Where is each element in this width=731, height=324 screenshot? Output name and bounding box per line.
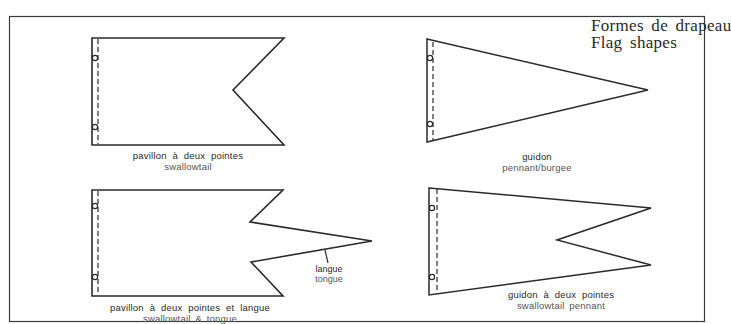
caption-en: swallowtail xyxy=(133,161,243,172)
annotation-en: tongue xyxy=(315,274,343,284)
grommet-icon xyxy=(92,203,97,208)
caption-fr: guidon à deux pointes xyxy=(508,289,614,300)
swallowtail-flag-shape xyxy=(92,38,284,145)
swallowtail-pennant-flag-shape xyxy=(429,188,651,295)
leader-line xyxy=(325,250,328,263)
annotation-fr: langue xyxy=(315,264,343,274)
caption-swallowtail-tongue: pavillon à deux pointes et langue swallo… xyxy=(110,302,270,324)
caption-en: swallowtail & tongue xyxy=(110,313,270,324)
caption-swallowtail: pavillon à deux pointes swallowtail xyxy=(133,150,243,172)
caption-en: pennant/burgee xyxy=(502,162,571,173)
caption-fr: pavillon à deux pointes et langue xyxy=(110,302,270,313)
grommet-icon xyxy=(429,274,434,279)
title-english: Flag shapes xyxy=(591,34,731,51)
pennant-flag-shape xyxy=(427,39,648,142)
caption-fr: pavillon à deux pointes xyxy=(133,150,243,161)
grommet-icon xyxy=(92,274,97,279)
grommet-icon xyxy=(92,55,97,60)
caption-pennant: guidon pennant/burgee xyxy=(502,151,571,173)
grommet-icon xyxy=(427,121,432,126)
grommet-icon xyxy=(427,55,432,60)
grommet-icon xyxy=(429,205,434,210)
grommet-icon xyxy=(92,124,97,129)
caption-fr: guidon xyxy=(502,151,571,162)
outer-frame xyxy=(10,17,705,322)
diagram-title: Formes de drapeau Flag shapes xyxy=(591,17,731,51)
annotation-tongue: langue tongue xyxy=(315,264,343,284)
caption-en: swallowtail pennant xyxy=(508,300,614,311)
caption-swallowtail-pennant: guidon à deux pointes swallowtail pennan… xyxy=(508,289,614,311)
title-french: Formes de drapeau xyxy=(591,17,731,34)
